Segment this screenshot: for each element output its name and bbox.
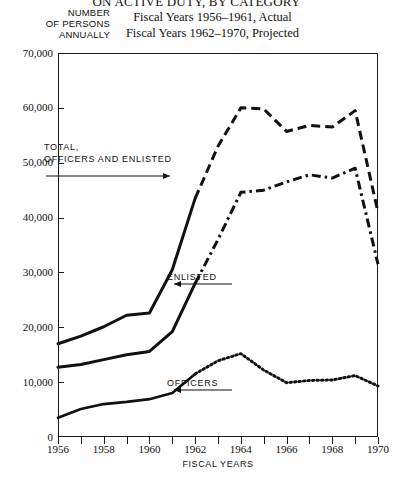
x-tick-label: 1958: [79, 443, 129, 455]
annotation-total: TOTAL, OFFICERS AND ENLISTED: [44, 142, 172, 165]
annotation-officers: OFFICERS: [167, 378, 218, 390]
x-tick-label: 1962: [170, 443, 220, 455]
y-tick-mark: [58, 108, 64, 109]
annotation-total-line-2: OFFICERS AND ENLISTED: [44, 154, 172, 166]
annotation-enlisted: ENLISTED: [167, 272, 217, 284]
x-tick-label: 1960: [124, 443, 174, 455]
x-axis-title: FISCAL YEARS: [58, 459, 378, 469]
x-tick-label: 1964: [216, 443, 266, 455]
y-axis-caption: NUMBER OF PERSONS ANNUALLY: [0, 7, 110, 40]
y-tick-label: 20,000: [0, 322, 53, 333]
x-tick-label: 1968: [307, 443, 357, 455]
x-tick-label: 1966: [262, 443, 312, 455]
y-tick-mark: [58, 218, 64, 219]
y-tick-label: 70,000: [0, 48, 53, 59]
y-tick-label: 10,000: [0, 377, 53, 388]
annotation-total-line-1: TOTAL,: [44, 142, 172, 154]
y-tick-label: 40,000: [0, 212, 53, 223]
x-tick-label: 1970: [353, 443, 393, 455]
y-tick-mark: [58, 382, 64, 383]
y-tick-label: 30,000: [0, 267, 53, 278]
y-tick-label: 60,000: [0, 102, 53, 113]
x-tick-label: 1956: [33, 443, 83, 455]
y-tick-mark: [58, 327, 64, 328]
y-tick-mark: [58, 272, 64, 273]
y-tick-label: 0: [0, 432, 53, 443]
y-axis-caption-line-3: ANNUALLY: [0, 29, 110, 40]
y-axis-caption-line-1: NUMBER: [0, 7, 110, 18]
y-axis-caption-line-2: OF PERSONS: [0, 18, 110, 29]
